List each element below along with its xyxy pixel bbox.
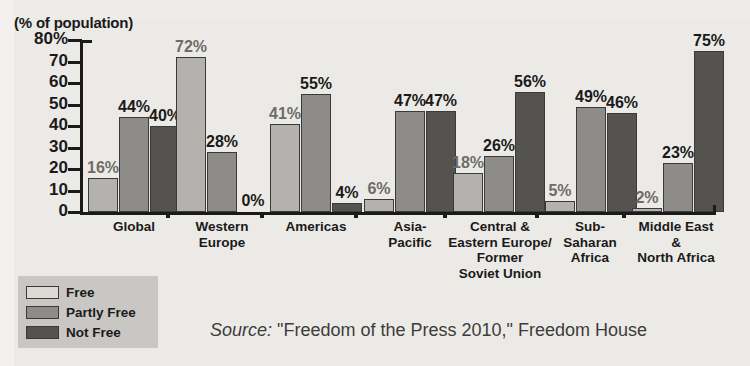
bar[interactable]: 55%: [301, 94, 331, 212]
x-axis-baseline: [82, 212, 716, 215]
bar-value-label: 26%: [483, 137, 515, 155]
bar-value-label: 6%: [367, 180, 390, 198]
category-label-line: Middle East: [616, 219, 736, 235]
bar[interactable]: 23%: [663, 163, 693, 212]
y-tick-mark: [68, 125, 82, 128]
group-separator-tick: [260, 212, 264, 218]
bar[interactable]: 6%: [364, 199, 394, 212]
y-tick-mark: [68, 82, 82, 85]
bar[interactable]: 47%: [395, 111, 425, 212]
bar-value-label: 4%: [335, 184, 358, 202]
bar[interactable]: 4%: [332, 203, 362, 212]
x-axis-right-cap: [713, 205, 716, 215]
category-label-line: Western: [172, 219, 272, 235]
chart-figure: (% of population) 01020304050607080% 16%…: [0, 0, 750, 366]
legend-item-not-free[interactable]: Not Free: [26, 322, 150, 342]
bar-value-label: 0%: [241, 192, 264, 210]
bar-value-label: 16%: [87, 159, 119, 177]
group-separator-tick: [166, 212, 170, 218]
legend-label-partly-free: Partly Free: [66, 305, 136, 320]
bar-value-label: 72%: [175, 38, 207, 56]
legend-label-free: Free: [66, 285, 95, 300]
bar-value-label: 56%: [514, 73, 546, 91]
y-tick-label: 80%: [6, 29, 68, 49]
legend-item-free[interactable]: Free: [26, 282, 150, 302]
plot-area: 16%44%40%72%28%0%41%55%4%6%47%47%18%26%5…: [82, 40, 714, 212]
bar[interactable]: 5%: [545, 201, 575, 212]
group-separator-tick: [354, 212, 358, 218]
legend-swatch-not-free-icon: [26, 326, 59, 339]
bar-value-label: 41%: [269, 105, 301, 123]
y-tick-mark: [68, 190, 82, 193]
bar-value-label: 2%: [635, 189, 658, 207]
category-label-line: North Africa: [616, 250, 736, 266]
y-tick-label: 20: [6, 158, 68, 178]
bar-value-label: 23%: [662, 144, 694, 162]
category-label-line: Americas: [266, 219, 366, 235]
bar-value-label: 47%: [394, 92, 426, 110]
source-note: Source: "Freedom of the Press 2010," Fre…: [210, 320, 647, 341]
bar[interactable]: 28%: [207, 152, 237, 212]
legend-label-not-free: Not Free: [66, 325, 121, 340]
clipped-title: [150, 0, 610, 7]
bar-value-label: 5%: [548, 182, 571, 200]
category-label: Americas: [266, 219, 366, 235]
y-tick-label: 10: [6, 180, 68, 200]
bar[interactable]: 75%: [694, 51, 724, 212]
source-citation: "Freedom of the Press 2010," Freedom Hou…: [272, 320, 647, 340]
category-label-line: Global: [84, 219, 184, 235]
bar-value-label: 55%: [300, 75, 332, 93]
bar[interactable]: 44%: [119, 117, 149, 212]
legend: Free Partly Free Not Free: [18, 276, 158, 348]
bar[interactable]: 26%: [484, 156, 514, 212]
source-label: Source:: [210, 320, 272, 340]
bar-value-label: 75%: [693, 32, 725, 50]
bar[interactable]: 2%: [632, 208, 662, 212]
bar[interactable]: 16%: [88, 178, 118, 212]
bar[interactable]: 49%: [576, 107, 606, 212]
bar[interactable]: 41%: [270, 124, 300, 212]
bar[interactable]: 72%: [176, 57, 206, 212]
category-label: Middle East&North Africa: [616, 219, 736, 266]
y-tick-mark: [68, 61, 82, 64]
group-separator-tick: [443, 212, 447, 218]
y-tick-label: 30: [6, 137, 68, 157]
y-tick-mark: [68, 147, 82, 150]
category-label: Global: [84, 219, 184, 235]
category-label: WesternEurope: [172, 219, 272, 250]
y-tick-label: 60: [6, 72, 68, 92]
y-axis-bottom-cap: [80, 212, 92, 215]
bar[interactable]: 18%: [453, 173, 483, 212]
y-tick-mark: [68, 104, 82, 107]
bar-value-label: 18%: [452, 154, 484, 172]
category-label-line: &: [616, 235, 736, 251]
bar-value-label: 49%: [575, 88, 607, 106]
y-tick-label: 70: [6, 51, 68, 71]
legend-swatch-free-icon: [26, 286, 59, 299]
group-separator-tick: [622, 212, 626, 218]
legend-swatch-partly-free-icon: [26, 306, 59, 319]
category-label-line: Europe: [172, 235, 272, 251]
legend-item-partly-free[interactable]: Partly Free: [26, 302, 150, 322]
category-label-line: Soviet Union: [436, 266, 564, 282]
y-tick-mark: [68, 168, 82, 171]
y-axis-top-cap: [80, 40, 92, 43]
bar[interactable]: 56%: [515, 92, 545, 212]
y-tick-label: 0: [6, 201, 68, 221]
bar-value-label: 28%: [206, 133, 238, 151]
group-separator-tick: [535, 212, 539, 218]
y-tick-label: 50: [6, 94, 68, 114]
bar-value-label: 44%: [118, 98, 150, 116]
y-tick-label: 40: [6, 115, 68, 135]
